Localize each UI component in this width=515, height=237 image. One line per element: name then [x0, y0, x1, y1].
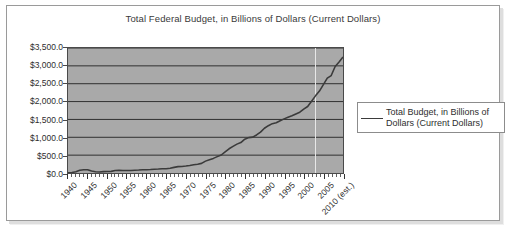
chart-title: Total Federal Budget, in Billions of Dol… — [7, 13, 499, 24]
x-tick-label: 2000 — [296, 180, 317, 201]
chart-frame: Total Federal Budget, in Billions of Dol… — [6, 5, 500, 221]
y-tick-label: $500.0 — [7, 151, 63, 161]
x-tick-label: 1980 — [217, 180, 238, 201]
y-tick-label: $2,500.0 — [7, 78, 63, 88]
y-tick-label: $3,500.0 — [7, 42, 63, 52]
legend-item-label: Total Budget, in Billions of Dollars (Cu… — [386, 107, 501, 129]
x-tick-label: 1985 — [236, 180, 257, 201]
legend-line-swatch — [361, 113, 383, 123]
x-tick-label: 1990 — [256, 180, 277, 201]
x-tick-label: 1995 — [276, 180, 297, 201]
x-tick-label: 1940 — [58, 180, 79, 201]
x-tick-label: 1970 — [177, 180, 198, 201]
x-tick-label: 1975 — [197, 180, 218, 201]
x-tick-label: 1965 — [157, 180, 178, 201]
line-series-svg — [68, 48, 343, 173]
y-tick-label: $3,000.0 — [7, 60, 63, 70]
x-tick-label: 1950 — [98, 180, 119, 201]
y-tick-label: $2,000.0 — [7, 96, 63, 106]
y-axis: $3,500.0$3,000.0$2,500.0$2,000.0$1,500.0… — [7, 47, 63, 174]
y-tick-label: $1,000.0 — [7, 133, 63, 143]
x-axis: 1940194519501955196019651970197519801985… — [7, 174, 515, 234]
x-tick-label: 1945 — [78, 180, 99, 201]
y-tick-label: $1,500.0 — [7, 115, 63, 125]
x-tick-label: 1955 — [118, 180, 139, 201]
x-tick-label: 1960 — [137, 180, 158, 201]
legend: Total Budget, in Billions of Dollars (Cu… — [357, 102, 505, 133]
plot-area — [67, 47, 344, 174]
